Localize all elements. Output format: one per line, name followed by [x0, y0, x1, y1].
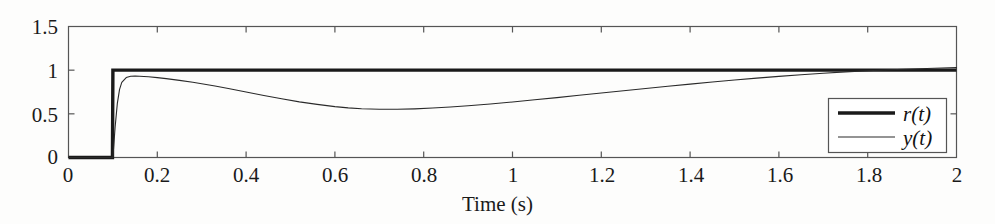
axes-frame	[69, 27, 957, 158]
x-tick-label-1.6: 1.6	[750, 163, 810, 188]
x-tick-label-2: 2	[927, 163, 987, 188]
legend-label-r: r(t)	[903, 102, 931, 127]
x-tick-label-1.4: 1.4	[661, 163, 721, 188]
y-tick-label-1: 1	[0, 59, 58, 84]
x-tick-label-1.8: 1.8	[839, 163, 899, 188]
x-tick-label-0: 0	[38, 163, 98, 188]
plot-canvas	[0, 0, 995, 224]
x-tick-label-0.4: 0.4	[216, 163, 276, 188]
x-tick-label-0.6: 0.6	[305, 163, 365, 188]
x-tick-label-1: 1	[483, 163, 543, 188]
data-series-group	[69, 68, 957, 158]
y-tick-label-0.5: 0.5	[0, 103, 58, 128]
x-tick-label-0.8: 0.8	[394, 163, 454, 188]
x-axis-ticks	[157, 27, 867, 158]
series-line-y	[69, 68, 957, 158]
x-axis-title: Time (s)	[0, 192, 995, 217]
x-tick-label-1.2: 1.2	[572, 163, 632, 188]
legend-label-y: y(t)	[903, 126, 932, 151]
y-tick-label-1.5: 1.5	[0, 15, 58, 40]
figure-step-response: 1.5 1 0.5 0 0 0.2 0.4 0.6 0.8 1 1.2 1.4 …	[0, 0, 995, 224]
y-axis-ticks	[69, 70, 957, 114]
x-tick-label-0.2: 0.2	[127, 163, 187, 188]
